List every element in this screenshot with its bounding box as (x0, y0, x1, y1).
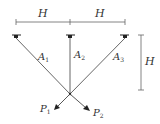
support-icon-left (12, 35, 21, 38)
load-arrow-p1 (54, 94, 70, 110)
dim-label-right: H (144, 55, 155, 68)
load-label-p1: P1 (39, 103, 51, 115)
support-icon-right (120, 35, 129, 38)
dim-label-top-left: H (37, 7, 48, 20)
load-arrow-p2 (70, 94, 90, 111)
right-dimension-line (138, 35, 144, 90)
member-label-a1: A1 (37, 51, 49, 63)
member-label-a2: A2 (73, 49, 85, 61)
member-label-a3: A3 (112, 51, 124, 63)
truss-members (16, 38, 125, 94)
load-label-p2: P2 (92, 107, 104, 119)
member-a1 (16, 38, 70, 94)
dim-label-top-right: H (94, 7, 105, 20)
truss-diagram: H H H A1 A2 A3 P1 P2 (0, 0, 160, 124)
member-a3 (70, 38, 125, 94)
top-dimension-line (16, 19, 125, 25)
support-icon-middle (66, 35, 75, 38)
